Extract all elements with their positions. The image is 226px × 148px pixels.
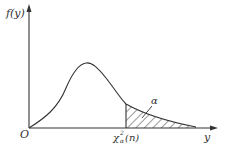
critical-value-arg: (n)	[125, 132, 139, 143]
critical-value-subscript: α	[120, 137, 124, 144]
origin-label: O	[20, 128, 29, 141]
y-axis	[27, 4, 32, 128]
density-curve	[29, 63, 196, 128]
area-label: α	[151, 95, 158, 106]
x-axis-label: y	[203, 131, 211, 144]
critical-value-label: χ 2 α (n)	[112, 129, 139, 144]
critical-value-superscript: 2	[119, 129, 124, 136]
chi-square-diagram: f(y) O y α χ 2 α (n)	[0, 0, 226, 148]
y-axis-label: f(y)	[5, 7, 25, 20]
x-axis-arrow-icon	[210, 126, 218, 131]
critical-value-base: χ	[112, 132, 120, 143]
y-axis-arrow-icon	[27, 4, 32, 12]
